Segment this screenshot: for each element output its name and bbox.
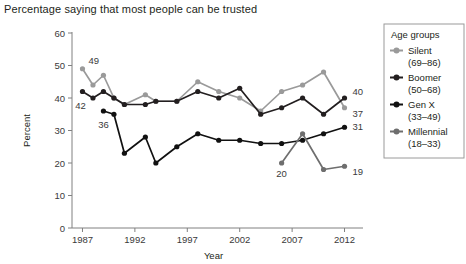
y-tick-label: 0 xyxy=(60,223,65,234)
data-point-silent xyxy=(101,73,106,78)
data-point-boomer xyxy=(174,99,179,104)
data-point-boomer xyxy=(122,102,127,107)
y-tick-label: 20 xyxy=(54,158,65,169)
data-point-silent xyxy=(80,66,85,71)
data-point-gen-x xyxy=(216,138,221,143)
data-point-millennial xyxy=(342,164,347,169)
legend-marker-boomer xyxy=(394,75,400,81)
data-point-boomer xyxy=(153,99,158,104)
data-label-19: 19 xyxy=(353,166,364,177)
data-point-gen-x xyxy=(321,131,326,136)
data-point-boomer xyxy=(216,95,221,100)
y-tick-label: 10 xyxy=(54,190,65,201)
data-point-millennial xyxy=(279,160,284,165)
legend-sublabel-gen-x: (33–49) xyxy=(408,111,441,122)
legend-sublabel-millennial: (18–33) xyxy=(408,138,441,149)
data-point-gen-x xyxy=(174,144,179,149)
legend-label-millennial[interactable]: Millennial xyxy=(408,126,448,137)
legend-title: Age groups xyxy=(391,29,440,40)
data-point-silent xyxy=(216,89,221,94)
x-axis-title: Year xyxy=(204,250,223,261)
legend-marker-millennial xyxy=(394,129,400,135)
series-line-silent xyxy=(82,69,344,111)
data-point-gen-x xyxy=(195,131,200,136)
x-tick-label: 1987 xyxy=(72,234,93,245)
data-point-gen-x xyxy=(101,108,106,113)
data-point-silent xyxy=(143,92,148,97)
data-point-boomer xyxy=(237,86,242,91)
data-point-gen-x xyxy=(279,141,284,146)
series-line-gen-x xyxy=(103,111,344,163)
x-tick-label: 1997 xyxy=(177,234,198,245)
data-point-silent xyxy=(342,105,347,110)
legend-label-boomer[interactable]: Boomer xyxy=(408,72,441,83)
legend-marker-silent xyxy=(394,48,400,54)
data-point-boomer xyxy=(258,112,263,117)
data-point-silent xyxy=(279,89,284,94)
data-point-boomer xyxy=(90,95,95,100)
data-point-gen-x xyxy=(122,151,127,156)
series-line-boomer xyxy=(82,88,344,114)
data-point-millennial xyxy=(300,131,305,136)
data-label-42: 42 xyxy=(75,100,86,111)
data-point-gen-x xyxy=(153,160,158,165)
data-point-boomer xyxy=(80,89,85,94)
x-tick-label: 2012 xyxy=(334,234,355,245)
data-point-boomer xyxy=(101,89,106,94)
line-chart: 0102030405060198719921997200220072012Yea… xyxy=(0,0,466,264)
data-point-boomer xyxy=(195,89,200,94)
data-point-silent xyxy=(300,82,305,87)
x-tick-label: 2002 xyxy=(229,234,250,245)
data-point-gen-x xyxy=(342,125,347,130)
data-label-31: 31 xyxy=(353,121,364,132)
data-label-36: 36 xyxy=(98,119,109,130)
legend-marker-gen-x xyxy=(394,102,400,108)
data-point-gen-x xyxy=(237,138,242,143)
data-point-millennial xyxy=(321,167,326,172)
data-label-20: 20 xyxy=(276,168,287,179)
data-label-49: 49 xyxy=(88,55,99,66)
legend-sublabel-boomer: (50–68) xyxy=(408,84,441,95)
data-point-silent xyxy=(237,95,242,100)
data-point-boomer xyxy=(143,102,148,107)
legend-sublabel-silent: (69–86) xyxy=(408,57,441,68)
data-point-boomer xyxy=(279,105,284,110)
y-tick-label: 60 xyxy=(54,28,65,39)
data-point-silent xyxy=(90,82,95,87)
series-line-millennial xyxy=(282,134,345,170)
y-tick-label: 30 xyxy=(54,125,65,136)
x-tick-label: 2007 xyxy=(282,234,303,245)
data-label-40: 40 xyxy=(353,86,364,97)
y-tick-label: 40 xyxy=(54,93,65,104)
data-point-boomer xyxy=(321,112,326,117)
legend-label-silent[interactable]: Silent xyxy=(408,45,432,56)
data-point-boomer xyxy=(300,95,305,100)
data-point-silent xyxy=(195,79,200,84)
data-point-gen-x xyxy=(258,141,263,146)
y-tick-label: 50 xyxy=(54,60,65,71)
data-point-boomer xyxy=(342,95,347,100)
y-axis-title: Percent xyxy=(21,114,32,147)
chart-canvas: 0102030405060198719921997200220072012Yea… xyxy=(0,0,466,264)
data-label-37: 37 xyxy=(353,108,364,119)
data-point-silent xyxy=(321,69,326,74)
data-point-gen-x xyxy=(111,112,116,117)
x-tick-label: 1992 xyxy=(124,234,145,245)
data-point-gen-x xyxy=(143,134,148,139)
data-point-boomer xyxy=(111,95,116,100)
legend-label-gen-x[interactable]: Gen X xyxy=(408,99,436,110)
